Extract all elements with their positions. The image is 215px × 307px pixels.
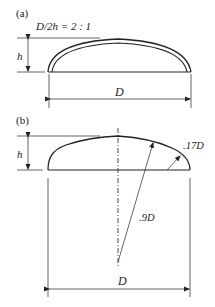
figure-b-label: (b) [16,114,29,127]
crown-radius-label: .9D [139,212,155,223]
figure-a-label: (a) [16,7,29,20]
dished-heads-diagram: (a) D/2h = 2 : 1 h D (b) h [0,0,215,307]
ratio-label: D/2h = 2 : 1 [35,20,91,32]
diameter-label: D [114,85,124,99]
figure-b: (b) h .9D .17D D [16,114,204,297]
diameter-label: D [117,274,127,288]
crown-radius-arrow [118,143,153,262]
height-label: h [17,50,23,62]
knuckle-radius-arrow [167,156,180,170]
knuckle-radius-label: .17D [183,140,204,151]
height-label: h [17,148,23,160]
figure-a: (a) D/2h = 2 : 1 h D [16,7,191,108]
head-profile [48,136,190,170]
head-outer-shell [48,39,191,72]
